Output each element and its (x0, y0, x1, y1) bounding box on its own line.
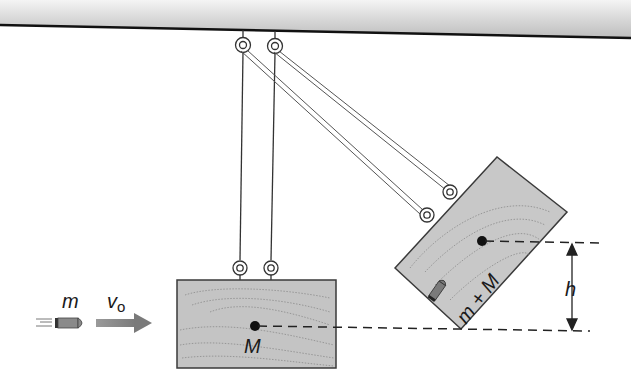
velocity-arrow (96, 313, 152, 333)
hanging-block-eyelets (233, 261, 278, 280)
velocity-label: vo (107, 290, 125, 315)
velocity-subscript: o (117, 298, 125, 315)
ceiling (0, 0, 631, 38)
block-mass-label: M (244, 335, 261, 357)
height-label: h (565, 278, 576, 300)
ballistic-pendulum-diagram: M m + M h (0, 0, 631, 386)
bullet-mass-label: m (62, 290, 79, 312)
pivot-eyelets (236, 30, 283, 54)
bullet (36, 318, 82, 328)
vertical-strings (240, 52, 275, 260)
